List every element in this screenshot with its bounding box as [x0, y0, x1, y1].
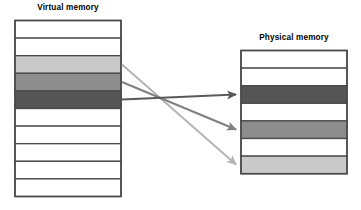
physical-memory-row-1	[241, 51, 347, 69]
physical-memory-row-5	[241, 121, 347, 139]
virtual-memory-row-2	[15, 38, 121, 56]
virtual-memory-row-10	[15, 179, 121, 197]
diagram-canvas: Virtual memory Physical memory	[0, 0, 361, 210]
medium-gray-mapping-arrow	[122, 82, 236, 130]
light-gray-mapping-arrow	[122, 65, 236, 165]
physical-memory-row-4	[241, 103, 347, 121]
virtual-memory-row-8	[15, 144, 121, 162]
physical-memory-row-2	[241, 68, 347, 86]
physical-memory-row-6	[241, 139, 347, 157]
virtual-memory-row-1	[15, 21, 121, 39]
virtual-memory-row-4	[15, 73, 121, 91]
memory-mapping-svg	[0, 0, 361, 210]
virtual-memory-row-7	[15, 126, 121, 144]
physical-memory-block	[241, 51, 347, 174]
physical-memory-row-3	[241, 86, 347, 104]
dark-gray-mapping-arrow	[122, 95, 236, 100]
virtual-memory-block	[15, 21, 121, 197]
mapping-arrows	[122, 65, 236, 165]
virtual-memory-row-3	[15, 56, 121, 74]
virtual-memory-row-6	[15, 109, 121, 127]
virtual-memory-row-9	[15, 161, 121, 179]
physical-memory-row-7	[241, 156, 347, 174]
virtual-memory-row-5	[15, 91, 121, 109]
